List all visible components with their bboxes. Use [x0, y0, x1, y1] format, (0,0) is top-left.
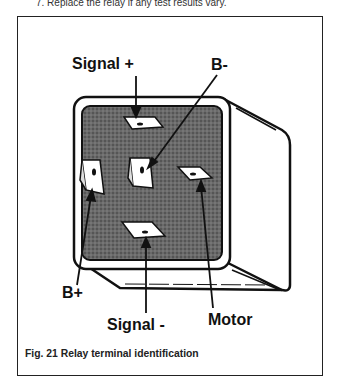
label-signal-plus: Signal +	[72, 55, 134, 73]
label-b-plus: B+	[62, 284, 83, 302]
relay-diagram	[0, 0, 339, 381]
label-signal-minus: Signal -	[107, 316, 165, 334]
figure-caption: Fig. 21 Relay terminal identification	[25, 347, 199, 359]
relay-body	[74, 97, 290, 290]
label-motor: Motor	[208, 311, 252, 329]
label-b-minus: B-	[211, 56, 228, 74]
